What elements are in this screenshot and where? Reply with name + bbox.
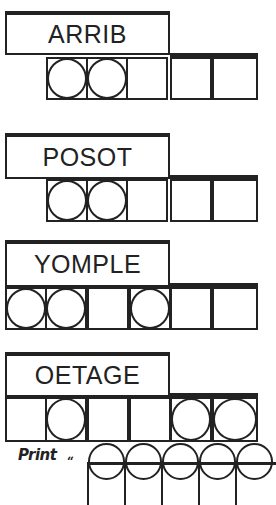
- circle-marker-icon: [46, 288, 86, 329]
- circle-marker-icon: [162, 443, 199, 480]
- open-quote: “: [67, 455, 74, 469]
- letter-cell-6[interactable]: [212, 287, 258, 330]
- circle-marker-icon: [171, 398, 211, 441]
- letter-cell-2[interactable]: [45, 397, 87, 442]
- circle-marker-icon: [125, 443, 162, 480]
- circle-marker-icon: [88, 443, 125, 480]
- letter-cell-2[interactable]: [86, 179, 128, 222]
- letter-cell-1[interactable]: [5, 397, 47, 442]
- circle-marker-icon: [47, 58, 87, 99]
- letter-cell-5[interactable]: [170, 397, 212, 442]
- letter-cell-6[interactable]: [212, 397, 258, 442]
- letter-cell-2[interactable]: [45, 287, 87, 330]
- letter-cell-3[interactable]: [126, 179, 168, 222]
- letter-cell-4[interactable]: [170, 57, 212, 100]
- circle-marker-icon: [199, 443, 236, 480]
- letter-cell-5[interactable]: [170, 287, 212, 330]
- letter-cell-1[interactable]: [46, 57, 88, 100]
- circle-marker-icon: [87, 58, 127, 99]
- letter-cell-1[interactable]: [46, 179, 88, 222]
- scrambled-word: ARRIB: [48, 22, 127, 47]
- scrambled-word: OETAGE: [35, 363, 140, 388]
- answer-cell-2[interactable]: [124, 465, 161, 505]
- letter-cell-4[interactable]: [129, 287, 171, 330]
- letter-cell-3[interactable]: [87, 287, 129, 330]
- letter-cell-4[interactable]: [170, 179, 212, 222]
- scrambled-word: YOMPLE: [34, 252, 141, 277]
- letter-cell-4[interactable]: [129, 397, 171, 442]
- letter-cell-3[interactable]: [87, 397, 129, 442]
- circle-marker-icon: [47, 180, 87, 221]
- scrambled-word-box: ARRIB: [5, 11, 170, 55]
- scrambled-word: POSOT: [42, 145, 132, 170]
- circle-marker-icon: [130, 288, 170, 329]
- circle-marker-icon: [236, 443, 273, 480]
- answer-cell-1[interactable]: [87, 465, 124, 505]
- scrambled-word-box: POSOT: [5, 133, 170, 179]
- answer-cell-3[interactable]: [161, 465, 198, 505]
- answer-cell-row: [87, 462, 276, 485]
- circle-marker-icon: [46, 398, 86, 441]
- circle-marker-icon: [87, 180, 127, 221]
- letter-cell-5[interactable]: [212, 179, 258, 222]
- circle-marker-icon: [213, 398, 257, 441]
- letter-cell-2[interactable]: [86, 57, 128, 100]
- scrambled-word-box: OETAGE: [5, 352, 170, 397]
- circle-marker-icon: [6, 288, 46, 329]
- letter-cell-1[interactable]: [5, 287, 47, 330]
- scrambled-word-box: YOMPLE: [5, 240, 170, 287]
- answer-cell-4[interactable]: [198, 465, 235, 505]
- print-answer-label: Print: [18, 446, 56, 464]
- letter-cell-3[interactable]: [126, 57, 168, 100]
- answer-cell-5[interactable]: [235, 465, 272, 505]
- letter-cell-5[interactable]: [212, 57, 258, 100]
